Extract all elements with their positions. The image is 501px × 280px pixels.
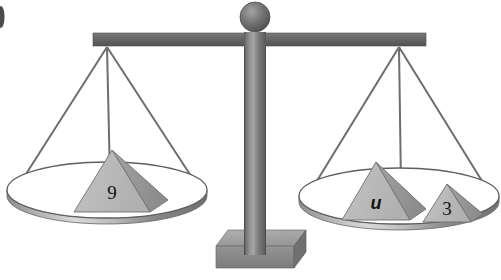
pyramid-3-label: 3 bbox=[442, 198, 452, 219]
post-over-beam bbox=[244, 32, 266, 47]
pyramid-9-label: 9 bbox=[107, 182, 117, 203]
left-assembly: 9 bbox=[7, 47, 207, 224]
scale-canvas: 9 3 u bbox=[0, 0, 501, 280]
scan-edge-mark bbox=[0, 6, 5, 28]
post-knob-sphere bbox=[240, 2, 270, 32]
right-assembly: 3 u bbox=[299, 47, 499, 230]
balance-beam-group bbox=[93, 32, 426, 47]
right-string-center bbox=[399, 47, 401, 186]
pyramid-u-label: u bbox=[371, 193, 382, 213]
post-column bbox=[244, 33, 266, 255]
balance-scale-figure: 9 3 u bbox=[0, 0, 501, 280]
